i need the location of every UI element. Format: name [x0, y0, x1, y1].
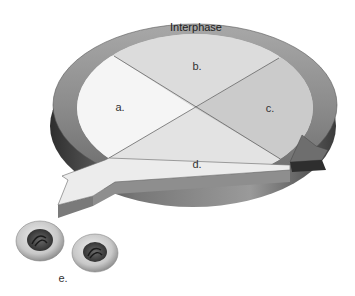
- segment-a-label: a.: [115, 101, 124, 113]
- cells-label: e.: [58, 272, 67, 284]
- diagram-graphic: [0, 0, 355, 296]
- cell-cycle-diagram: Interphase a. b. c. d. e.: [0, 0, 355, 296]
- interphase-label: Interphase: [170, 21, 222, 33]
- segment-d-label: d.: [192, 158, 201, 170]
- daughter-cell-1: [16, 221, 64, 261]
- daughter-cell-2: [72, 234, 118, 272]
- segment-c-label: c.: [266, 102, 275, 114]
- segment-b-label: b.: [192, 60, 201, 72]
- daughter-cells: [16, 221, 118, 272]
